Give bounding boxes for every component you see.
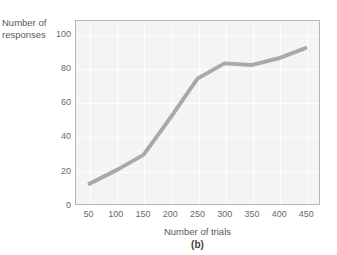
y-tick-label: 0 bbox=[47, 200, 71, 210]
y-tick-label: 20 bbox=[47, 166, 71, 176]
y-tick-label: 80 bbox=[47, 63, 71, 73]
panel-caption: (b) bbox=[75, 239, 320, 250]
y-tick-label: 60 bbox=[47, 97, 71, 107]
plot-area bbox=[75, 20, 320, 205]
x-axis-title: Number of trials bbox=[75, 226, 320, 237]
figure-panel-b: Number of responses 020406080100 5010015… bbox=[0, 0, 337, 255]
y-tick-label: 100 bbox=[47, 29, 71, 39]
y-axis-tick-labels: 020406080100 bbox=[45, 20, 71, 205]
data-series-line bbox=[76, 21, 319, 204]
x-axis-tick-labels: 50100150200250300350400450 bbox=[75, 209, 320, 223]
x-tick-label: 450 bbox=[289, 209, 323, 219]
y-tick-label: 40 bbox=[47, 131, 71, 141]
